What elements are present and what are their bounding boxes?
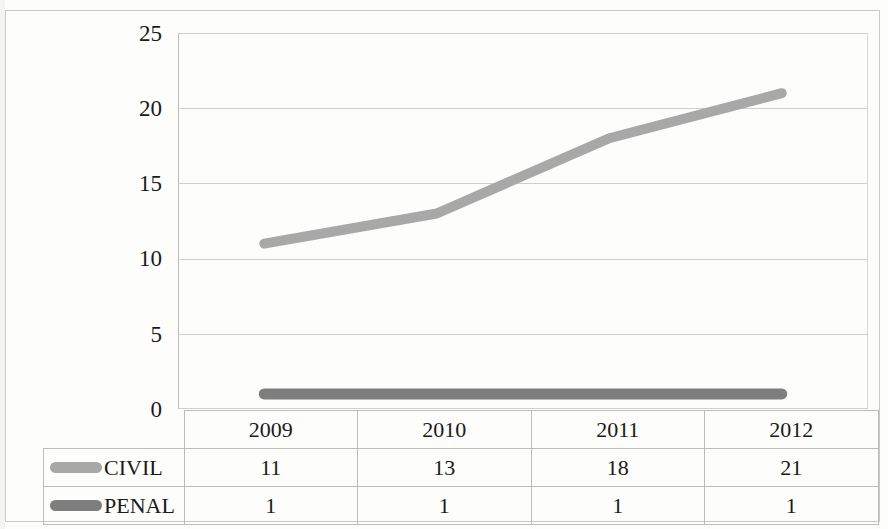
table-header-2009: 2009 <box>184 411 358 449</box>
scan-edge <box>0 0 5 529</box>
series-line-civil <box>264 93 782 243</box>
table-header-2011: 2011 <box>531 411 705 449</box>
cell-civil-2012: 21 <box>705 449 879 487</box>
y-axis-labels: 25 20 15 10 5 0 <box>100 33 162 409</box>
table-row: CIVIL 11 13 18 21 <box>44 449 879 487</box>
penal-legend-swatch-icon <box>50 500 102 511</box>
cell-civil-2011: 18 <box>531 449 705 487</box>
table-header-row: 2009 2010 2011 2012 <box>44 411 879 449</box>
y-tick-20: 20 <box>102 97 162 120</box>
cell-penal-2011: 1 <box>531 487 705 525</box>
table-header-2010: 2010 <box>358 411 532 449</box>
cell-civil-2009: 11 <box>184 449 358 487</box>
legend-cell-penal: PENAL <box>44 487 185 525</box>
data-table: 2009 2010 2011 2012 CIVIL 11 13 18 21 PE… <box>43 410 879 525</box>
y-tick-5: 5 <box>102 323 162 346</box>
table-row: PENAL 1 1 1 1 <box>44 487 879 525</box>
legend-cell-civil: CIVIL <box>44 449 185 487</box>
plot-area <box>178 33 868 409</box>
y-tick-10: 10 <box>102 247 162 270</box>
cell-penal-2009: 1 <box>184 487 358 525</box>
series-label-penal: PENAL <box>104 493 175 519</box>
cell-penal-2010: 1 <box>358 487 532 525</box>
series-label-civil: CIVIL <box>104 455 163 481</box>
y-tick-15: 15 <box>102 172 162 195</box>
chart-screenshot: 25 20 15 10 5 0 2009 2010 2011 2012 <box>0 0 888 529</box>
series-lines <box>178 33 868 409</box>
y-tick-25: 25 <box>102 22 162 45</box>
cell-penal-2012: 1 <box>705 487 879 525</box>
civil-legend-swatch-icon <box>50 462 102 473</box>
table-header-2012: 2012 <box>705 411 879 449</box>
cell-civil-2010: 13 <box>358 449 532 487</box>
table-header-corner <box>44 411 185 449</box>
